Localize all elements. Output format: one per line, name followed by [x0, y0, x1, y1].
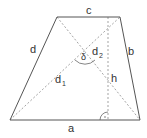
- label-b: b: [128, 45, 134, 57]
- label-d1: d 1: [55, 73, 66, 87]
- label-h: h: [111, 72, 117, 84]
- svg-text:2: 2: [99, 52, 103, 59]
- label-d: d: [30, 43, 36, 55]
- label-a: a: [68, 122, 75, 134]
- label-d2: d 2: [92, 45, 103, 59]
- trapezoid-outline: [10, 17, 140, 120]
- label-delta: δ: [81, 52, 86, 62]
- trapezoid-diagram: c d b a h δ d 2 d 1: [0, 0, 147, 138]
- label-c: c: [86, 4, 92, 16]
- svg-text:d: d: [55, 73, 61, 85]
- svg-text:1: 1: [62, 80, 66, 87]
- diagonal-d1: [10, 17, 120, 120]
- right-angle-dot: [104, 116, 105, 117]
- right-angle-marker: [100, 112, 108, 120]
- svg-text:d: d: [92, 45, 98, 57]
- diagonal-d2: [57, 17, 140, 120]
